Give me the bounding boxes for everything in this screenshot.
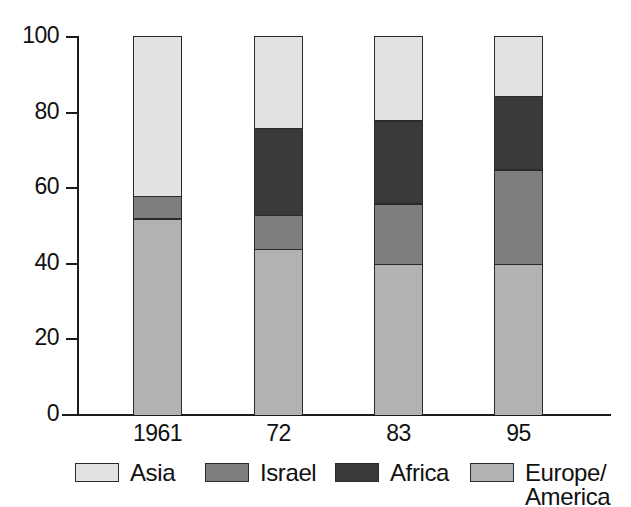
bar-72[interactable] bbox=[254, 36, 303, 414]
bar-segment-israel-95[interactable] bbox=[495, 169, 542, 264]
x-axis-tick-label-1961: 1961 bbox=[98, 420, 218, 446]
y-axis-tick bbox=[66, 263, 78, 265]
legend-item-israel[interactable]: Israel bbox=[205, 461, 316, 485]
chart-legend: AsiaIsraelAfricaEurope/ America bbox=[0, 461, 631, 507]
legend-label: Israel bbox=[260, 461, 316, 485]
y-axis-tick bbox=[66, 36, 78, 38]
bar-83[interactable] bbox=[374, 36, 423, 414]
bar-segment-europe-america-83[interactable] bbox=[375, 264, 422, 415]
bar-segment-israel-72[interactable] bbox=[255, 215, 302, 249]
y-axis-tick-label: 20 bbox=[0, 326, 59, 349]
segment-divider bbox=[495, 264, 542, 266]
bar-segment-europe-america-95[interactable] bbox=[495, 264, 542, 415]
segment-divider bbox=[495, 96, 542, 98]
bar-segment-israel-1961[interactable] bbox=[134, 196, 181, 219]
x-axis-tick-label-95: 95 bbox=[459, 420, 579, 446]
legend-swatch bbox=[470, 463, 514, 482]
segment-divider bbox=[134, 196, 181, 198]
bar-segment-asia-95[interactable] bbox=[495, 37, 542, 96]
bar-segment-africa-72[interactable] bbox=[255, 128, 302, 215]
segment-divider bbox=[375, 264, 422, 266]
x-axis-tick-label-72: 72 bbox=[219, 420, 339, 446]
y-axis-tick-label: 80 bbox=[0, 100, 59, 123]
bar-segment-israel-83[interactable] bbox=[375, 203, 422, 263]
segment-divider bbox=[134, 218, 181, 220]
y-axis-tick bbox=[66, 187, 78, 189]
y-axis-tick bbox=[66, 414, 78, 416]
legend-swatch bbox=[205, 463, 249, 482]
stacked-bar-chart: 020406080100 1961728395 AsiaIsraelAfrica… bbox=[0, 0, 631, 507]
legend-label: Europe/ America bbox=[525, 461, 610, 507]
bar-95[interactable] bbox=[494, 36, 543, 414]
segment-divider bbox=[375, 203, 422, 205]
y-axis-tick-label: 60 bbox=[0, 175, 59, 198]
bar-segment-asia-83[interactable] bbox=[375, 37, 422, 120]
y-axis-tick-label: 100 bbox=[0, 24, 59, 47]
segment-divider bbox=[255, 215, 302, 217]
segment-divider bbox=[375, 120, 422, 122]
legend-item-asia[interactable]: Asia bbox=[75, 461, 175, 485]
legend-item-europe--america[interactable]: Europe/ America bbox=[470, 461, 610, 507]
legend-swatch bbox=[75, 463, 119, 482]
bar-1961[interactable] bbox=[133, 36, 182, 414]
legend-item-africa[interactable]: Africa bbox=[335, 461, 449, 485]
x-axis-tick-label-83: 83 bbox=[339, 420, 459, 446]
plot-area: 020406080100 1961728395 bbox=[62, 28, 611, 420]
segment-divider bbox=[255, 249, 302, 251]
y-axis-tick bbox=[66, 112, 78, 114]
bar-segment-europe-america-72[interactable] bbox=[255, 249, 302, 415]
legend-label: Africa bbox=[390, 461, 449, 485]
y-axis-tick-label: 40 bbox=[0, 251, 59, 274]
bar-segment-africa-83[interactable] bbox=[375, 120, 422, 203]
y-axis-tick-label: 0 bbox=[0, 402, 59, 425]
y-axis-tick bbox=[66, 338, 78, 340]
bar-segment-africa-95[interactable] bbox=[495, 96, 542, 170]
segment-divider bbox=[495, 169, 542, 171]
legend-swatch bbox=[335, 463, 379, 482]
bar-segment-asia-72[interactable] bbox=[255, 37, 302, 128]
y-axis-line bbox=[77, 36, 79, 414]
legend-label: Asia bbox=[130, 461, 175, 485]
segment-divider bbox=[255, 128, 302, 130]
bar-segment-asia-1961[interactable] bbox=[134, 37, 181, 196]
bar-segment-europe-america-1961[interactable] bbox=[134, 218, 181, 415]
